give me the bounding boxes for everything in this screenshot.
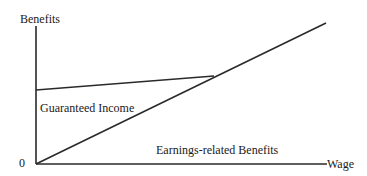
guaranteed-income-line [36,76,214,90]
earnings-related-benefits-label: Earnings-related Benefits [156,144,278,156]
guaranteed-income-label: Guaranteed Income [40,102,134,114]
x-axis-label: Wage [327,158,354,170]
y-axis-label: Benefits [20,13,60,25]
origin-label: 0 [19,157,25,169]
